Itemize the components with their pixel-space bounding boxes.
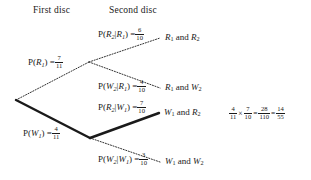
outcome-2-second-var: W — [191, 82, 199, 92]
outcome-3-second-sub: 2 — [198, 110, 201, 117]
p-w2-w1-numerator: 3 — [139, 152, 148, 159]
p-r2-r1-open: P( — [98, 29, 106, 39]
p-r2-r1-close: ) = — [125, 29, 135, 39]
header-first-disc: First disc — [33, 6, 70, 16]
p-w2-w1-fraction: 310 — [139, 152, 148, 167]
probability-tree-diagram: First disc Second disc P(R1) =711 P(W1) … — [0, 0, 311, 180]
calc-f4-numerator: 14 — [276, 106, 285, 113]
calc-fraction-3: 28110 — [258, 106, 270, 121]
p-w2-r1-open: P( — [98, 81, 106, 91]
p-w2-w1-variable: W — [106, 154, 114, 164]
p-r2-w1-denominator: 10 — [137, 107, 146, 115]
outcome-3-conjunction: and — [177, 107, 190, 117]
p-w2-w1-open: P( — [98, 154, 106, 164]
p-r2-r1-numerator: 6 — [135, 27, 144, 34]
calc-f3-numerator: 28 — [258, 106, 270, 113]
p-w2-r1-denominator: 10 — [137, 86, 146, 94]
p-w1-denominator: 11 — [52, 133, 60, 141]
p-r2-w1-condition: W — [116, 102, 124, 112]
p-w2-r1-numerator: 4 — [137, 79, 146, 86]
tree-branches — [0, 0, 311, 180]
outcome-4-first-var: W — [165, 156, 173, 166]
calc-f4-denominator: 55 — [276, 113, 285, 121]
calc-fraction-4: 1455 — [276, 106, 285, 121]
p-w1-numerator: 4 — [52, 126, 60, 133]
probability-calculation: 411×710=28110=1455 — [229, 106, 285, 121]
outcome-3-first-var: W — [164, 107, 172, 117]
p-r2-w1-open: P( — [98, 102, 106, 112]
outcome-3-first-sub: 1 — [172, 110, 175, 117]
p-w1-open: P( — [23, 128, 31, 138]
p-r1-numerator: 7 — [55, 55, 63, 62]
outcome-4-second-sub: 2 — [201, 159, 204, 166]
p-w2-w1-condition: W — [118, 154, 126, 164]
p-r2-r1-fraction: 610 — [135, 27, 144, 42]
outcome-2-conjunction: and — [176, 82, 189, 92]
p-w2-r1-variable: W — [106, 81, 114, 91]
label-p-w1: P(W1) =411 — [23, 126, 60, 141]
calc-f2-numerator: 7 — [244, 106, 253, 113]
p-r1-close: ) = — [45, 57, 55, 67]
p-w2-w1-denominator: 10 — [139, 159, 148, 167]
calc-f2-denominator: 10 — [244, 113, 253, 121]
outcome-2-first-sub: 1 — [171, 85, 174, 92]
calc-fraction-2: 710 — [244, 106, 253, 121]
p-r2-w1-close: ) = — [127, 102, 137, 112]
outcome-1-first-sub: 1 — [171, 35, 174, 42]
outcome-4-second-var: W — [193, 156, 201, 166]
p-r2-w1-fraction: 710 — [137, 100, 146, 115]
outcome-w1-and-r2: W1 and R2 — [164, 108, 201, 118]
p-w1-close: ) = — [42, 128, 52, 138]
outcome-r1-and-w2: R1 and W2 — [165, 83, 202, 93]
outcome-w1-and-w2: W1 and W2 — [165, 157, 204, 167]
label-p-r2-given-w1: P(R2|W1) =710 — [98, 100, 146, 115]
header-second-disc: Second disc — [109, 6, 157, 16]
calc-f3-denominator: 110 — [258, 113, 270, 121]
p-w1-fraction: 411 — [52, 126, 60, 141]
outcome-4-conjunction: and — [178, 156, 191, 166]
p-r1-denominator: 11 — [55, 62, 63, 70]
p-r1-fraction: 711 — [55, 55, 63, 70]
p-w2-r1-fraction: 410 — [137, 79, 146, 94]
p-r2-w1-numerator: 7 — [137, 100, 146, 107]
label-p-r1: P(R1) =711 — [28, 55, 63, 70]
branch-w1-to-r2-highlighted — [90, 113, 159, 138]
p-w2-r1-close: ) = — [127, 81, 137, 91]
outcome-1-conjunction: and — [176, 32, 189, 42]
label-p-w2-given-w1: P(W2|W1) =310 — [98, 152, 148, 167]
p-w1-variable: W — [31, 128, 39, 138]
outcome-r1-and-r2: R1 and R2 — [165, 33, 200, 43]
p-r2-r1-denominator: 10 — [135, 34, 144, 42]
label-p-w2-given-r1: P(W2|R1) =410 — [98, 79, 146, 94]
p-r1-open: P( — [28, 57, 36, 67]
p-w2-w1-close: ) = — [129, 154, 139, 164]
outcome-1-second-sub: 2 — [197, 35, 200, 42]
outcome-4-first-sub: 1 — [173, 159, 176, 166]
outcome-2-second-sub: 2 — [199, 85, 202, 92]
label-p-r2-given-r1: P(R2|R1) =610 — [98, 27, 144, 42]
